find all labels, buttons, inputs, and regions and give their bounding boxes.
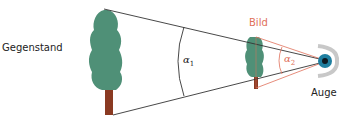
object-tree (89, 10, 122, 115)
alpha2-label: α2 (284, 53, 295, 67)
image-label: Bild (249, 17, 268, 28)
eye-label: Auge (311, 87, 337, 98)
alpha1-label: α1 (183, 54, 194, 68)
eye-icon (318, 46, 337, 76)
object-label: Gegenstand (2, 42, 63, 53)
alpha2-arc (279, 47, 282, 74)
visual-angle-diagram (0, 0, 351, 121)
